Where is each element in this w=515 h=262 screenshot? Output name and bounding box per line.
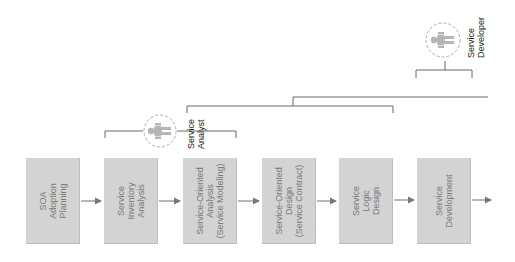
step-label: Service Logic Design [351, 158, 381, 244]
step-soa-adoption-planning: SOA Adoption Planning [26, 158, 80, 244]
step-label: Service-Oriented Analysis (Service Model… [195, 158, 225, 244]
developer-bracket [416, 61, 472, 78]
step-label: Service-Oriented Design (Service Contrac… [274, 158, 304, 244]
service-analyst-label: Service Analyst [186, 119, 206, 149]
step-service-inventory-analysis: Service Inventory Analysis [104, 158, 158, 244]
step-service-oriented-analysis: Service-Oriented Analysis (Service Model… [183, 158, 237, 244]
developer-person-icon [426, 23, 460, 57]
soa-lifecycle-diagram: Service Analyst Service Developer SOA Ad… [0, 0, 515, 262]
service-developer-label: Service Developer [466, 17, 486, 58]
design-span-bracket [187, 97, 488, 113]
step-service-development: Service Development [417, 158, 471, 244]
step-label: SOA Adoption Planning [38, 158, 68, 244]
step-service-logic-design: Service Logic Design [339, 158, 393, 244]
step-label: Service Inventory Analysis [116, 158, 146, 244]
step-service-oriented-design: Service-Oriented Design (Service Contrac… [262, 158, 316, 244]
step-label: Service Development [434, 158, 454, 244]
analyst-person-icon [144, 115, 176, 147]
